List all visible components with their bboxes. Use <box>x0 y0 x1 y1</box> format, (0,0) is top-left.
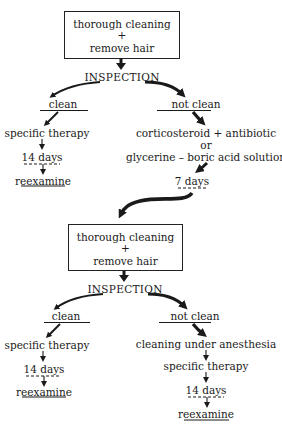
treatment-or: or <box>200 139 211 151</box>
inspection-label-2: INSPECTION <box>87 283 162 295</box>
arrow-inspection-to-not-clean <box>145 82 182 94</box>
not-clean-label-1: not clean <box>171 98 220 110</box>
wait-14-days-3: 14 days <box>185 384 226 396</box>
arrow-not-clean2-to-anesthesia <box>193 324 203 334</box>
clean-label-2: clean <box>52 310 80 322</box>
box1-line3: remove hair <box>65 42 179 54</box>
not-clean-label-2: not clean <box>170 310 219 322</box>
arrow-inspection2-to-not-clean <box>148 294 184 306</box>
treatment-line1: corticosteroid + antibiotic <box>136 127 276 139</box>
treatment-line2: glycerine – boric acid solution <box>126 151 282 163</box>
arrow-7days-to-box2 <box>121 193 192 214</box>
arrow-clean-to-therapy <box>46 112 58 124</box>
arrow-inspection2-to-clean <box>56 294 103 308</box>
wait-14-days-1: 14 days <box>21 151 62 163</box>
reexamine-2: reexamine <box>16 386 72 398</box>
arrow-inspection-to-clean <box>52 82 100 96</box>
wait-7-days: 7 days <box>175 175 209 187</box>
specific-therapy-2: specific therapy <box>5 339 90 351</box>
specific-therapy-1: specific therapy <box>5 127 90 139</box>
arrow-box2-to-inspection <box>119 271 129 282</box>
cleaning-under-anesthesia: cleaning under anesthesia <box>136 338 276 350</box>
wait-14-days-2: 14 days <box>23 363 64 375</box>
clean-label-1: clean <box>49 98 77 110</box>
cleaning-box-1: thorough cleaning + remove hair <box>64 11 180 59</box>
arrow-not-clean-to-treatment <box>193 112 202 122</box>
specific-therapy-3: specific therapy <box>164 360 249 372</box>
box2-line3: remove hair <box>69 255 182 267</box>
cleaning-box-2: thorough cleaning + remove hair <box>68 224 183 271</box>
box2-plus: + <box>69 242 182 254</box>
reexamine-1: reexamine <box>15 175 71 187</box>
reexamine-3: reexamine <box>178 408 234 420</box>
arrow-treatment-to-7days <box>199 163 207 170</box>
inspection-label-1: INSPECTION <box>84 71 159 83</box>
arrow-clean2-to-therapy <box>48 324 60 336</box>
arrow-box1-to-inspection <box>116 59 126 70</box>
box1-plus: + <box>65 29 179 41</box>
